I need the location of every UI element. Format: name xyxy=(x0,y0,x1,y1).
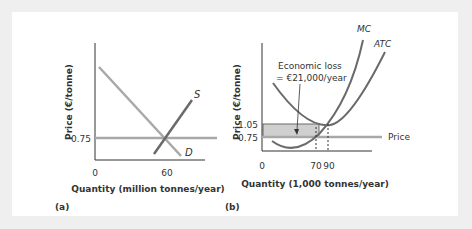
loss-label-line2: = €21,000/year xyxy=(276,73,347,83)
chart-a: S D 0.75 0 60 Quantity (million tonnes/y… xyxy=(55,43,225,212)
economic-loss-area xyxy=(263,124,319,137)
chart-svg: S D 0.75 0 60 Quantity (million tonnes/y… xyxy=(0,0,472,229)
price-label-b: Price xyxy=(388,132,410,142)
loss-label-line1: Economic loss xyxy=(278,61,342,71)
x-tick-0-b: 0 xyxy=(259,161,265,171)
demand-curve xyxy=(99,67,181,156)
x-tick-70-b: 70 xyxy=(310,161,322,171)
panel-label-b: (b) xyxy=(225,202,240,212)
x-tick-90-b: 90 xyxy=(323,161,335,171)
y-axis-label-a: Price (€/tonne) xyxy=(64,64,74,140)
x-tick-0-a: 0 xyxy=(92,168,98,178)
mc-label: MC xyxy=(357,24,372,34)
demand-label: D xyxy=(185,147,193,158)
y-axis-label-b: Price (€/tonne) xyxy=(232,64,242,140)
atc-label: ATC xyxy=(373,39,392,49)
panel-label-a: (a) xyxy=(55,202,69,212)
chart-b: MC ATC Economic loss = €21,000/year Pric… xyxy=(225,24,410,212)
supply-label: S xyxy=(194,89,201,100)
x-tick-60-a: 60 xyxy=(161,168,173,178)
x-axis-label-b: Quantity (1,000 tonnes/year) xyxy=(241,179,389,189)
loss-arrow xyxy=(297,84,300,130)
x-axis-label-a: Quantity (million tonnes/year) xyxy=(71,184,224,194)
